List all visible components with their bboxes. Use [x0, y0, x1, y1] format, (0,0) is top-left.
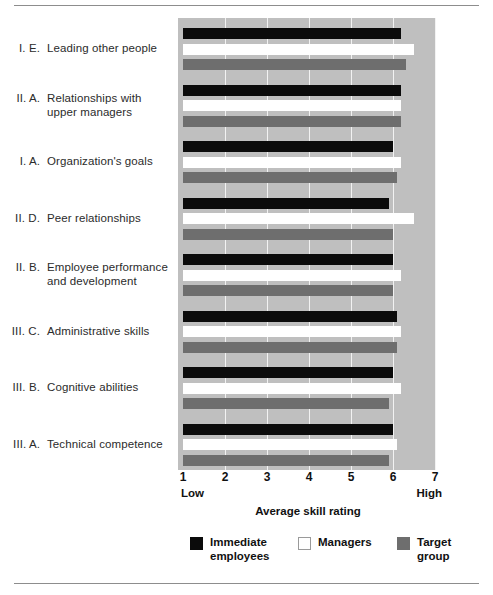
category-label-0: I. E.Leading other people — [0, 41, 172, 55]
legend-label-target: Target group — [417, 536, 480, 563]
legend-swatch-target-icon — [397, 537, 410, 550]
x-tick-6: 6 — [390, 470, 397, 484]
category-label-1: II. A.Relationships withupper managers — [0, 91, 172, 119]
legend-label-immediate: Immediate employees — [210, 536, 269, 563]
bar-managers-7 — [183, 439, 397, 450]
gridline-7 — [435, 18, 436, 470]
bar-managers-1 — [183, 100, 401, 111]
category-label-3: II. D.Peer relationships — [0, 211, 172, 225]
plot-area — [178, 18, 435, 470]
category-text2-1: upper managers — [0, 105, 172, 119]
category-number-3: II. D. — [0, 211, 47, 225]
chart-figure: I. E.Leading other peopleII. A.Relations… — [0, 0, 493, 595]
bar-target-5 — [183, 342, 397, 353]
category-number-0: I. E. — [0, 41, 47, 55]
axis-high-label: High — [416, 487, 442, 499]
category-text-7: Technical competence — [47, 438, 163, 450]
bar-target-0 — [183, 59, 406, 70]
x-axis-title: Average skill rating — [178, 505, 438, 517]
chart-legend: Immediate employeesManagersTarget group — [190, 536, 480, 576]
legend-swatch-immediate-icon — [190, 537, 203, 550]
legend-item-managers[interactable]: Managers — [298, 536, 372, 550]
category-number-5: III. C. — [0, 324, 47, 338]
bar-immediate-3 — [183, 198, 389, 209]
legend-swatch-managers-icon — [298, 537, 311, 550]
bar-managers-3 — [183, 213, 414, 224]
x-tick-4: 4 — [306, 470, 313, 484]
bar-immediate-4 — [183, 254, 393, 265]
bar-managers-5 — [183, 326, 401, 337]
category-text-2: Organization's goals — [47, 155, 153, 167]
bar-target-7 — [183, 455, 389, 466]
category-label-5: III. C.Administrative skills — [0, 324, 172, 338]
category-number-6: III. B. — [0, 380, 47, 394]
category-text2-4: and development — [0, 274, 172, 288]
category-label-4: II. B.Employee performanceand developmen… — [0, 260, 172, 288]
category-label-2: I. A.Organization's goals — [0, 154, 172, 168]
x-tick-2: 2 — [222, 470, 229, 484]
bar-target-3 — [183, 229, 393, 240]
x-axis: Low High 1234567 — [178, 470, 438, 510]
legend-item-immediate[interactable]: Immediate employees — [190, 536, 269, 563]
bar-immediate-6 — [183, 367, 393, 378]
bar-immediate-7 — [183, 424, 393, 435]
axis-low-label: Low — [181, 487, 204, 499]
category-text-4: Employee performance — [47, 261, 168, 273]
category-text-5: Administrative skills — [47, 325, 149, 337]
category-number-4: II. B. — [0, 260, 47, 274]
category-number-2: I. A. — [0, 154, 47, 168]
bar-managers-6 — [183, 383, 401, 394]
category-text-1: Relationships with — [47, 92, 142, 104]
bar-managers-4 — [183, 270, 401, 281]
bottom-divider-rule — [14, 583, 479, 584]
bar-target-1 — [183, 116, 401, 127]
legend-label-managers: Managers — [318, 536, 372, 550]
bar-immediate-5 — [183, 311, 397, 322]
category-text-6: Cognitive abilities — [47, 381, 138, 393]
bar-immediate-0 — [183, 28, 401, 39]
x-tick-3: 3 — [264, 470, 271, 484]
bar-target-2 — [183, 172, 397, 183]
x-tick-7: 7 — [432, 470, 439, 484]
category-number-1: II. A. — [0, 91, 47, 105]
bar-immediate-2 — [183, 141, 393, 152]
legend-item-target[interactable]: Target group — [397, 536, 480, 563]
category-label-6: III. B.Cognitive abilities — [0, 380, 172, 394]
category-text-0: Leading other people — [47, 42, 157, 54]
category-text-3: Peer relationships — [47, 212, 141, 224]
bar-target-6 — [183, 398, 389, 409]
category-number-7: III. A. — [0, 437, 47, 451]
top-divider-rule — [14, 5, 479, 6]
x-tick-5: 5 — [348, 470, 355, 484]
category-label-column: I. E.Leading other peopleII. A.Relations… — [0, 18, 172, 470]
x-tick-1: 1 — [180, 470, 187, 484]
category-label-7: III. A.Technical competence — [0, 437, 172, 451]
bar-managers-2 — [183, 157, 401, 168]
bar-target-4 — [183, 285, 393, 296]
bar-immediate-1 — [183, 85, 401, 96]
bar-managers-0 — [183, 44, 414, 55]
